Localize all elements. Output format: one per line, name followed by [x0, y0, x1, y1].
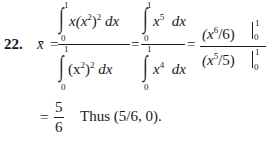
integrand: x(x2)2 dx [69, 13, 119, 30]
x-bar: x̄ [37, 36, 44, 53]
equals-sign: = [187, 36, 195, 53]
evaluation-bar [252, 51, 253, 68]
integrand: x5 dx [153, 13, 186, 30]
problem-number: 22. [4, 36, 23, 53]
result-numerator: 5 [55, 99, 63, 116]
equals-sign: = [40, 109, 48, 126]
upper-limit: 1 [255, 18, 260, 28]
upper-limit: 1 [64, 0, 69, 10]
lower-limit: 0 [254, 62, 259, 72]
integral-sign: ∫ [143, 52, 148, 80]
lower-limit: 0 [254, 32, 259, 42]
lower-limit: 0 [144, 33, 149, 43]
step3-denominator: (x5/5) [202, 52, 235, 69]
step3-numerator: (x6/6) [202, 26, 235, 43]
fraction-bar [58, 44, 130, 45]
evaluation-bar [252, 22, 253, 39]
integrand: (x2)2 dx [68, 61, 112, 78]
lower-limit: 0 [61, 33, 66, 43]
fraction-bar [54, 117, 64, 118]
lower-limit: 0 [144, 82, 149, 92]
upper-limit: 1 [255, 47, 260, 57]
result-denominator: 6 [55, 119, 63, 136]
integral-sign: ∫ [143, 4, 148, 32]
equals-sign: = [131, 36, 139, 53]
upper-limit: 1 [64, 44, 69, 54]
conclusion-text: Thus (5/6, 0). [80, 108, 162, 125]
integral-sign: ∫ [59, 52, 64, 80]
integrand: x4 dx [153, 61, 186, 78]
integral-sign: ∫ [59, 4, 64, 32]
lower-limit: 0 [61, 82, 66, 92]
